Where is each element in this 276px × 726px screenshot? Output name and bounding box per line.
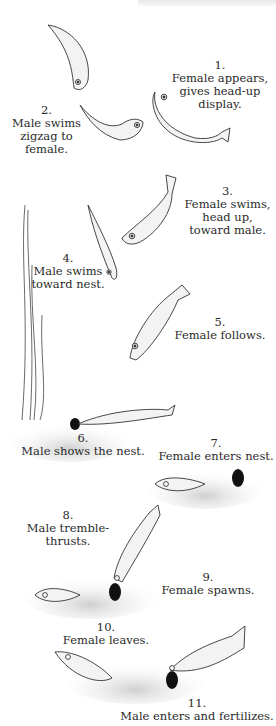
step-1-label: 1. Female appears, gives head-up display…: [170, 59, 270, 111]
step-7-label: 7. Female enters nest.: [158, 437, 274, 463]
step-10-label: 10. Female leaves.: [60, 621, 152, 647]
fish-male-step2-icon: [80, 105, 143, 140]
fish-female-step3-icon: [122, 175, 176, 244]
step-4-label: 4. Male swims toward nest.: [30, 252, 106, 291]
nest-entrance-step9: [109, 583, 121, 601]
fish-male-step11-icon: [170, 626, 245, 671]
step-5-label: 5. Female follows.: [172, 316, 268, 342]
step-11-label: 11. Male enters and fertilizes.: [118, 697, 276, 723]
step-3-label: 3. Female swims, head up, toward male.: [180, 185, 275, 237]
step-2-label: 2. Male swims zigzag to female.: [4, 104, 89, 156]
fish-male-step6-icon: [78, 405, 175, 424]
nest-entrance-step11: [166, 671, 178, 689]
step-9-label: 9. Female spawns.: [158, 571, 258, 597]
nest-entrance-step7: [232, 469, 244, 487]
aquatic-plant-icon: [22, 205, 44, 420]
step-8-label: 8. Male tremble-thrusts.: [8, 509, 128, 548]
fish-male-step2-curved-icon: [48, 25, 88, 90]
step-6-label: 6. Male shows the nest.: [8, 432, 158, 458]
